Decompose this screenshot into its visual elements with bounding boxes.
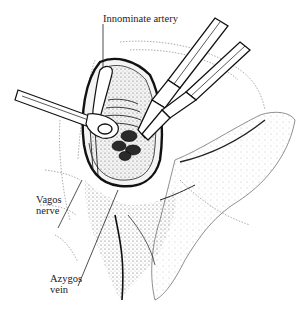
label-vagus-line1: Vagos (36, 194, 62, 205)
label-azygos-line1: Azygos (50, 273, 82, 284)
label-vagus-line2: nerve (36, 205, 59, 216)
label-azygos-line2: vein (50, 284, 68, 295)
drawing (0, 0, 301, 319)
surgical-illustration: Innominate artery Vagos nerve Azygos vei… (0, 0, 301, 319)
label-innominate-artery: Innominate artery (103, 13, 178, 24)
